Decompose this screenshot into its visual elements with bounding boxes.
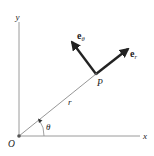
origin-label: O bbox=[8, 139, 15, 149]
point-p bbox=[95, 73, 98, 76]
point-p-label: P bbox=[96, 78, 103, 88]
polar-unit-vectors-diagram: y x O P r θ er eθ bbox=[0, 0, 154, 156]
radius-label: r bbox=[68, 97, 72, 107]
radius-line bbox=[19, 74, 96, 136]
x-axis-label: x bbox=[142, 131, 147, 141]
origin-point bbox=[17, 134, 21, 138]
theta-arc bbox=[40, 121, 45, 137]
e-theta-label: eθ bbox=[77, 30, 85, 42]
e-r-label: er bbox=[130, 48, 137, 60]
e-theta-vector bbox=[72, 42, 96, 74]
e-r-vector bbox=[96, 49, 128, 74]
y-axis-label: y bbox=[15, 12, 20, 22]
angle-label: θ bbox=[46, 122, 51, 132]
